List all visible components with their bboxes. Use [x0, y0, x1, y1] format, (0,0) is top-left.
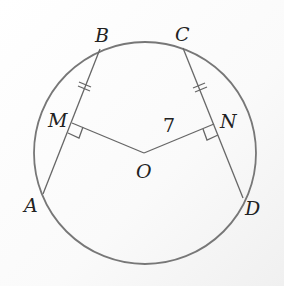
label-n: N	[219, 110, 238, 132]
geometry-figure: B C M N O A D 7	[0, 0, 284, 286]
label-a: A	[22, 194, 38, 216]
right-angle-mark-m	[68, 127, 83, 138]
measurement-on: 7	[163, 114, 175, 136]
diagram-canvas: B C M N O A D 7	[0, 0, 284, 286]
label-b: B	[94, 24, 109, 46]
segment-on	[144, 124, 214, 153]
label-c: C	[175, 23, 190, 45]
label-d: D	[244, 197, 260, 219]
label-o: O	[136, 160, 152, 182]
label-m: M	[47, 109, 68, 131]
